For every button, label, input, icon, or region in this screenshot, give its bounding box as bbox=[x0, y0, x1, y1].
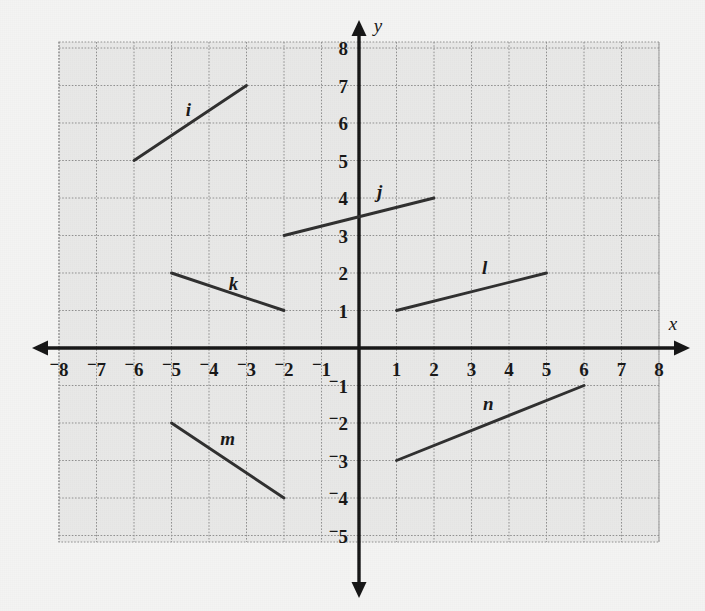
segment-label-n: n bbox=[483, 393, 494, 414]
y-axis-label: y bbox=[372, 15, 383, 36]
x-axis-label: x bbox=[668, 313, 678, 334]
y-tick-label: 7 bbox=[339, 76, 349, 97]
x-tick-label: 4 bbox=[504, 359, 514, 380]
x-tick-label: 2 bbox=[429, 359, 439, 380]
x-tick-label: 5 bbox=[542, 359, 552, 380]
x-tick-label: 8 bbox=[654, 359, 664, 380]
y-tick-label: 3 bbox=[339, 226, 349, 247]
y-tick-label: 8 bbox=[339, 38, 349, 59]
x-tick-label: 3 bbox=[467, 359, 477, 380]
x-tick-label: 7 bbox=[617, 359, 627, 380]
segment-label-i: i bbox=[186, 99, 192, 120]
x-tick-label: 6 bbox=[579, 359, 589, 380]
y-tick-label: 2 bbox=[339, 263, 349, 284]
coordinate-plane-svg: −8−7−6−5−4−3−2−11234567887654321−1−2−3−4… bbox=[0, 0, 705, 611]
y-tick-label: 5 bbox=[339, 151, 349, 172]
coordinate-plane-figure: −8−7−6−5−4−3−2−11234567887654321−1−2−3−4… bbox=[0, 0, 705, 611]
y-tick-label: 6 bbox=[339, 113, 349, 134]
x-tick-label: 1 bbox=[392, 359, 402, 380]
y-tick-label: 1 bbox=[339, 301, 349, 322]
segment-label-m: m bbox=[220, 428, 235, 449]
segment-label-l: l bbox=[482, 257, 488, 278]
segment-label-k: k bbox=[229, 273, 239, 294]
y-tick-label: 4 bbox=[339, 188, 349, 209]
